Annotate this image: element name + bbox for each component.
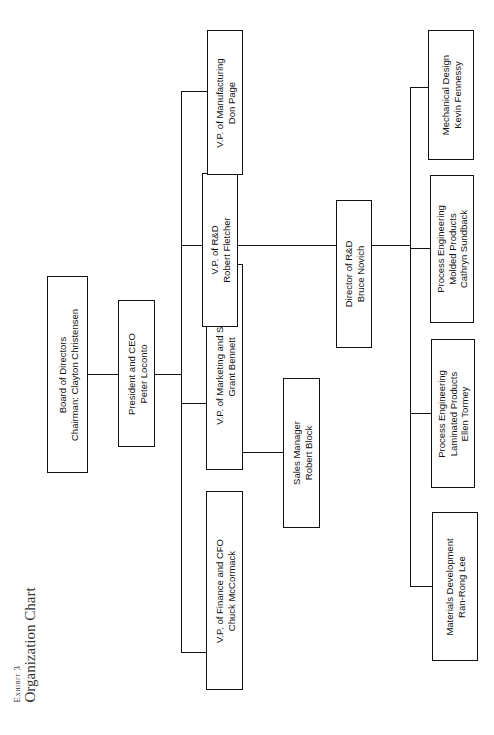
- node-role: President and CEO: [125, 333, 137, 415]
- connector-rd-director: [238, 245, 336, 246]
- connector-trunk-vp-finance: [181, 652, 206, 653]
- connector-board-ceo: [88, 374, 118, 375]
- node-person: Robert Fletcher: [220, 217, 232, 282]
- exhibit-title: Exhibit 3 Organization Chart: [12, 587, 39, 702]
- node-role: Board of Directors: [56, 308, 68, 440]
- node-vp-rd: V.P. of R&D Robert Fletcher: [202, 173, 238, 327]
- node-process-laminated: Process Engineering Laminated Products E…: [431, 339, 475, 488]
- connector-trunk-materials: [410, 586, 432, 587]
- connector-rd-trunk: [410, 87, 411, 587]
- connector-trunk-vp-manufacturing: [181, 91, 207, 92]
- node-role: Process Engineering: [435, 205, 447, 293]
- node-person: Kevin Fennessy: [451, 55, 463, 135]
- node-materials-development: Materials Development Ran-Rong Lee: [432, 512, 478, 661]
- node-person: Chuck McCormack: [225, 538, 237, 642]
- node-mechanical-design: Mechanical Design Kevin Fennessy: [428, 30, 474, 160]
- node-vp-finance: V.P. of Finance and CFO Chuck McCormack: [206, 491, 243, 690]
- node-role: V.P. of Finance and CFO: [213, 538, 225, 642]
- node-role: V.P. of R&D: [209, 217, 221, 282]
- connector-trunk-vp-marketing: [181, 403, 206, 404]
- node-person: Chairman: Clayton Christensen: [68, 308, 80, 440]
- node-role: Sales Manager: [290, 421, 302, 485]
- node-role: Process Engineering: [436, 370, 448, 458]
- node-sales-manager: Sales Manager Robert Block: [283, 378, 320, 528]
- node-role: Materials Development: [444, 538, 456, 635]
- node-person: Peter Loconto: [137, 333, 149, 415]
- connector-trunk-vp-rd: [181, 245, 202, 246]
- connector-trunk-mechanical: [410, 87, 428, 88]
- node-vp-manufacturing: V.P. of Manufacturing Don Page: [207, 30, 243, 175]
- connector-trunk-molded: [410, 248, 430, 249]
- node-director-rd: Director of R&D Bruce Novich: [336, 200, 372, 348]
- node-role: V.P. of Manufacturing: [214, 58, 226, 147]
- node-subunit: Molded Products: [446, 205, 458, 293]
- node-person: Ellen Tormey: [459, 370, 471, 458]
- node-person: Robert Block: [302, 421, 314, 485]
- node-subunit: Laminated Products: [447, 370, 459, 458]
- node-president-ceo: President and CEO Peter Loconto: [118, 300, 155, 447]
- node-role: Director of R&D: [343, 241, 355, 308]
- node-person: Ran-Rong Lee: [455, 538, 467, 635]
- connector-vp-trunk: [181, 91, 182, 653]
- node-person: Bruce Novich: [354, 241, 366, 308]
- exhibit-label: Exhibit 3: [12, 587, 22, 702]
- connector-director-trunk: [372, 245, 411, 246]
- node-process-molded: Process Engineering Molded Products Cath…: [430, 175, 474, 323]
- node-person: Don Page: [225, 58, 237, 147]
- node-role: Mechanical Design: [440, 55, 452, 135]
- connector-trunk-laminated: [410, 413, 431, 414]
- connector-marketing-sales: [243, 452, 283, 453]
- chart-title: Organization Chart: [22, 587, 39, 702]
- node-person: Cathryn Sundback: [458, 205, 470, 293]
- node-board-of-directors: Board of Directors Chairman: Clayton Chr…: [47, 276, 88, 473]
- connector-ceo-trunk: [155, 374, 182, 375]
